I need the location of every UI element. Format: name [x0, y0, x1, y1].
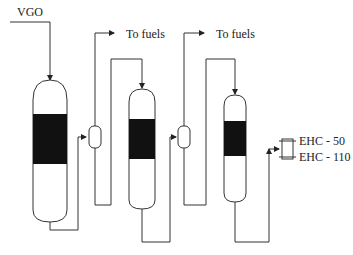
outlet-label-1: To fuels [126, 27, 165, 41]
outlet-label-2: To fuels [216, 27, 255, 41]
process-flow-diagram: VGO To fuels To fuels EHC - 50 EHC [0, 0, 353, 255]
reactor-2 [129, 89, 155, 209]
feed-line [10, 22, 50, 80]
reactor-3 [224, 95, 246, 202]
product-vessel [279, 139, 296, 159]
catalyst-bed-1 [33, 114, 67, 164]
reactor-1 [33, 80, 67, 222]
separator-2 [178, 126, 190, 148]
product-label-2: EHC - 110 [299, 150, 351, 164]
product-label-1: EHC - 50 [299, 134, 345, 148]
catalyst-bed-3 [224, 121, 246, 156]
line-sep2-to-fuels [184, 33, 204, 126]
separator-1 [89, 126, 101, 148]
feed-label: VGO [17, 5, 43, 19]
catalyst-bed-2 [129, 119, 155, 159]
